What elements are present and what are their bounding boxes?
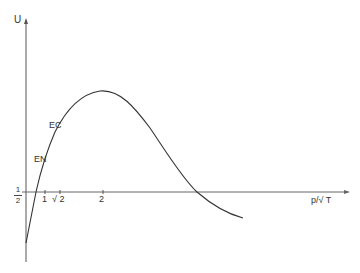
x-tick-label-2: 2	[99, 195, 104, 204]
y-axis-arrow-icon	[24, 18, 28, 24]
y-tick-half: 1 2	[14, 186, 22, 205]
y-axis-label: U	[14, 15, 21, 25]
x-axis-label: p/√ T	[311, 196, 331, 205]
y-tick-denominator: 2	[14, 196, 22, 205]
x-tick-label-sqrt2: √ 2	[52, 195, 64, 204]
x-tick-label-1: 1	[42, 195, 47, 204]
y-tick-numerator: 1	[14, 186, 22, 196]
u-curve	[26, 91, 243, 243]
x-axis-arrow-icon	[344, 190, 350, 194]
annotation-ec: EC	[49, 121, 62, 130]
annotation-en: EN	[34, 155, 47, 164]
plot-canvas	[0, 0, 360, 273]
